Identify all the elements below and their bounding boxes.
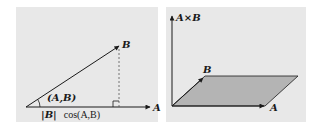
dot-product-panel: B A (A,B) |B| cos(A,B) [16, 7, 161, 122]
vector-a-label: A [152, 102, 161, 113]
cross-product-label: A×B [175, 12, 201, 23]
projection-cos-label: cos(A,B) [64, 109, 100, 121]
cross-product-panel: A×B B A [166, 7, 306, 122]
projection-abs-label: |B| [41, 109, 57, 121]
left-panel-background [16, 7, 158, 122]
vector-a-label-right: A [269, 102, 278, 113]
angle-label: (A,B) [47, 92, 76, 104]
vector-products-diagram: B A (A,B) |B| cos(A,B) A×B B A [0, 0, 321, 129]
vector-b-label-right: B [202, 64, 211, 75]
vector-b-label: B [121, 39, 130, 50]
